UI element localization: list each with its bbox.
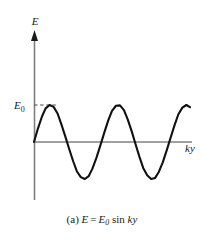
figure-caption: (a) E=E0 sin ky — [0, 212, 204, 230]
amplitude-label-subscript: 0 — [21, 105, 25, 114]
figure-panel: E ky E0 (a) E=E0 sin ky — [0, 0, 204, 243]
wave-plot: E ky E0 — [0, 0, 204, 243]
caption-argument: ky — [128, 213, 138, 225]
caption-index: (a) — [67, 213, 79, 225]
caption-function: sin — [112, 213, 125, 225]
caption-amplitude-subscript: 0 — [105, 218, 109, 227]
vertical-axis-arrowhead — [31, 30, 38, 41]
caption-equals: = — [88, 213, 98, 225]
amplitude-label: E0 — [13, 99, 25, 114]
vertical-axis-label: E — [31, 15, 39, 27]
horizontal-axis-label: ky — [185, 142, 195, 154]
